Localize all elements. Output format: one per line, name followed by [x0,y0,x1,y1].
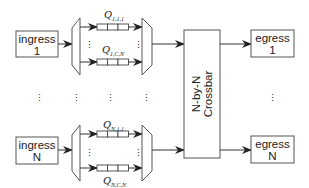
mux-1 [142,18,152,75]
ellipsis-icon: ⋮ [72,93,81,103]
demux-n [72,125,80,181]
crossbar-label-line1: N-by-N [190,76,202,112]
queue-n-c-n-label: QN,C,N [103,174,127,188]
ingress-1-box: ingress 1 [16,31,58,57]
egress-n-number: N [268,150,276,162]
ellipsis-icon: ⋮ [268,93,277,103]
ingress-n-number: N [33,151,41,163]
crossbar-box: N-by-N Crossbar [184,30,220,158]
egress-1-label: egress [255,32,290,44]
ellipsis-icon: ⋮ [35,93,44,103]
ellipsis-icon: ⋮ [142,93,151,103]
crossbar-switch-diagram: ingress 1 Q1,1,1 ⋮ ⋮ Q1,C,N ⋮ ⋮ ⋮ ⋮ ⋮ in… [0,0,309,188]
queue-1-c-n [97,59,129,65]
queue-1-1-1-label: Q1,1,1 [104,8,124,22]
crossbar-label-line2: Crossbar [202,71,214,118]
ellipsis-icon: ⋮ [85,148,94,158]
ellipsis-icon: ⋮ [134,40,143,50]
egress-n-box: egress N [251,136,294,163]
egress-1-number: 1 [269,44,275,56]
egress-n-label: egress [255,138,290,150]
ingress-1-number: 1 [34,45,40,57]
mux-n [142,125,152,181]
ellipsis-icon: ⋮ [134,148,143,158]
egress-1-box: egress 1 [251,30,294,57]
ingress-1-label: ingress [18,33,55,45]
queue-1-1-1 [97,24,129,30]
queue-1-c-n-label: Q1,C,N [102,43,125,57]
ingress-n-label: ingress [18,139,55,151]
queue-n-1-1-label: QN,1,1 [103,118,124,132]
ellipsis-icon: ⋮ [106,93,115,103]
queue-n-c-n [97,165,129,171]
demux-1 [72,18,80,75]
ellipsis-icon: ⋮ [85,40,94,50]
ingress-n-box: ingress N [16,137,58,164]
